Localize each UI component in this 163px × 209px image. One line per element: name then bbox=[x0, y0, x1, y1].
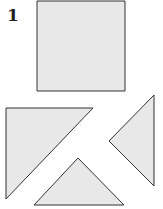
square-piece bbox=[37, 1, 125, 91]
right-triangle-piece bbox=[109, 95, 154, 186]
tangram-pieces bbox=[0, 0, 163, 209]
bottom-triangle-piece bbox=[34, 158, 124, 205]
